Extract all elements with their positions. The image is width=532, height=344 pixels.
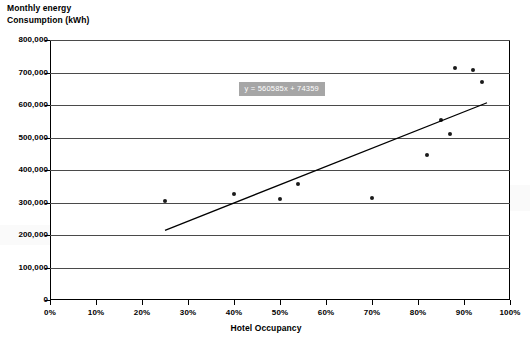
y-axis-tick-label: 300,000	[2, 199, 48, 207]
x-axis-title: Hotel Occupancy	[0, 323, 532, 333]
gridline-horizontal	[50, 268, 510, 269]
x-axis-tick-label: 90%	[444, 308, 484, 317]
gridline-horizontal	[50, 203, 510, 204]
x-axis-tick-mark	[142, 300, 143, 305]
data-point	[453, 66, 457, 70]
gridline-horizontal	[50, 40, 510, 41]
y-axis-tick-label: 400,000	[2, 166, 48, 174]
x-axis-tick-label: 40%	[214, 308, 254, 317]
y-axis-title-line-2: Consumption (kWh)	[7, 15, 89, 27]
x-axis-tick-mark	[234, 300, 235, 305]
y-axis-tick-label: 100,000	[2, 264, 48, 272]
x-axis-tick-label: 30%	[168, 308, 208, 317]
x-axis-tick-mark	[510, 300, 511, 305]
x-axis-tick-mark	[326, 300, 327, 305]
x-axis-tick-mark	[464, 300, 465, 305]
y-axis-tick-label: 800,000	[2, 36, 48, 44]
x-axis-tick-label: 70%	[352, 308, 392, 317]
y-axis-tick-label: 600,000	[2, 101, 48, 109]
data-point	[163, 199, 167, 203]
y-axis-tick-label-wrapper: 700,000	[0, 69, 48, 77]
y-axis-tick-label-wrapper: 400,000	[0, 166, 48, 174]
gridline-horizontal	[50, 170, 510, 171]
x-axis-tick-mark	[188, 300, 189, 305]
x-axis-tick-label: 100%	[490, 308, 530, 317]
y-axis-title: Monthly energy Consumption (kWh)	[7, 3, 89, 26]
y-axis-tick-label-wrapper: 300,000	[0, 199, 48, 207]
x-axis-tick-mark	[50, 300, 51, 305]
y-axis-tick-label-wrapper: 200,000	[0, 231, 48, 239]
x-axis-tick-label: 10%	[76, 308, 116, 317]
trendline-equation-label: y = 560585x + 74359	[239, 82, 325, 96]
y-axis-tick-label-wrapper: 600,000	[0, 101, 48, 109]
y-axis-tick-label-wrapper: 500,000	[0, 134, 48, 142]
x-axis-tick-mark	[280, 300, 281, 305]
gridline-horizontal	[50, 138, 510, 139]
y-axis-tick-label-wrapper: 0	[0, 296, 48, 304]
y-axis-tick-label: 700,000	[2, 69, 48, 77]
y-axis-tick-label: 500,000	[2, 134, 48, 142]
x-axis-tick-label: 60%	[306, 308, 346, 317]
x-axis-tick-label: 20%	[122, 308, 162, 317]
y-axis-title-line-1: Monthly energy	[7, 3, 89, 15]
gridline-horizontal	[50, 235, 510, 236]
gridline-horizontal	[50, 105, 510, 106]
x-axis-tick-mark	[372, 300, 373, 305]
x-axis-tick-mark	[96, 300, 97, 305]
x-axis-tick-mark	[418, 300, 419, 305]
x-axis-tick-label: 50%	[260, 308, 300, 317]
y-axis-tick-label-wrapper: 100,000	[0, 264, 48, 272]
x-axis-tick-label: 80%	[398, 308, 438, 317]
y-axis-tick-label-wrapper: 800,000	[0, 36, 48, 44]
x-axis-tick-label: 0%	[30, 308, 70, 317]
y-axis-tick-label: 0	[2, 296, 48, 304]
scatter-chart: Monthly energy Consumption (kWh) 0100,00…	[0, 0, 532, 344]
y-axis-tick-label: 200,000	[2, 231, 48, 239]
gridline-horizontal	[50, 73, 510, 74]
data-point	[448, 132, 452, 136]
